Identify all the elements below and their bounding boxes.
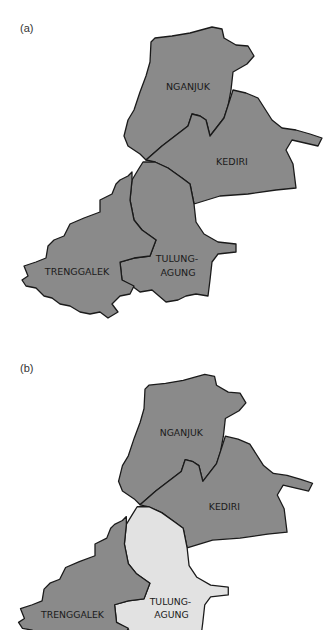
panel-b-map: NGANJUK KEDIRI TRENGGALEK TULUNG- AGUNG [0, 350, 336, 630]
label-kediri: KEDIRI [216, 156, 248, 167]
label-kediri: KEDIRI [209, 501, 240, 512]
label-tulungagung-2: AGUNG [160, 267, 195, 278]
label-trenggalek: TRENGGALEK [40, 609, 105, 620]
label-nganjuk: NGANJUK [160, 427, 204, 438]
label-trenggalek: TRENGGALEK [44, 266, 110, 277]
label-nganjuk: NGANJUK [166, 81, 211, 92]
panel-a-map: NGANJUK KEDIRI TRENGGALEK TULUNG- AGUNG [0, 0, 336, 320]
label-tulungagung-1: TULUNG- [155, 253, 198, 264]
label-tulungagung-2: AGUNG [154, 609, 188, 620]
label-tulungagung-1: TULUNG- [149, 596, 192, 607]
